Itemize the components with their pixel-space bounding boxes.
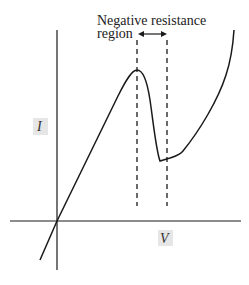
title-line-2: region	[97, 26, 133, 41]
iv-diagram: Negative resistance region I V	[0, 0, 249, 285]
double-arrow-icon	[138, 31, 167, 37]
x-axis-label: V	[160, 231, 170, 246]
iv-curve	[40, 30, 234, 260]
